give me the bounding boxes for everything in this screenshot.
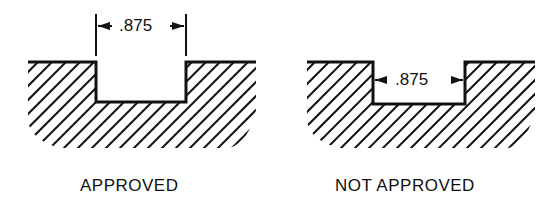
approved-dimension-label: .875 bbox=[119, 16, 152, 36]
approved-caption: APPROVED bbox=[80, 176, 178, 196]
not-approved-caption: NOT APPROVED bbox=[335, 176, 475, 196]
not-approved-figure: .875 NOT APPROVED bbox=[277, 0, 554, 207]
not-approved-dimension-label: .875 bbox=[395, 70, 428, 90]
approved-figure: .875 APPROVED bbox=[0, 0, 277, 207]
